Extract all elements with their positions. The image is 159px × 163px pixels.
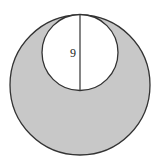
concentric-circles-diagram: 9 xyxy=(0,0,159,163)
diameter-label: 9 xyxy=(70,46,76,60)
